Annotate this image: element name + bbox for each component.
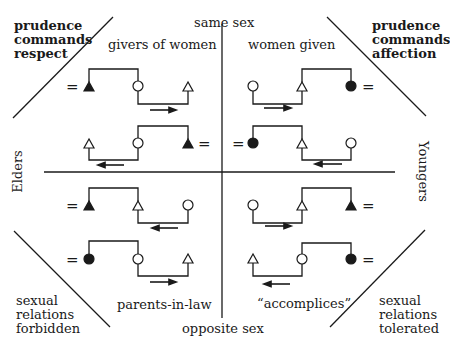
axis-label-left: Elders (10, 147, 25, 197)
axis-label-top: same sex (194, 16, 254, 30)
open-circle-icon (133, 254, 143, 264)
open-circle-icon (248, 81, 258, 91)
filled-triangle-icon (84, 82, 94, 91)
open-circle-icon (183, 200, 193, 210)
corner-label-bottom-right: sexual relations tolerated (379, 294, 439, 336)
equals-sign: = (66, 80, 79, 94)
axis-label-bottom: opposite sex (182, 322, 264, 336)
open-circle-icon (133, 138, 143, 148)
corner-label-bottom-left: sexual relations forbidden (16, 294, 80, 336)
open-triangle-icon (297, 201, 307, 210)
filled-circle-icon (84, 254, 94, 264)
open-triangle-icon (183, 254, 193, 263)
filled-circle-icon (346, 81, 356, 91)
quadrant-label-bottom-right: “accomplices” (257, 297, 351, 311)
quadrant-label-top-right: women given (248, 38, 335, 52)
open-circle-icon (346, 138, 356, 148)
open-circle-icon (133, 81, 143, 91)
open-triangle-icon (84, 139, 94, 148)
equals-sign: = (232, 137, 245, 151)
filled-triangle-icon (346, 201, 356, 210)
open-triangle-icon (183, 82, 193, 91)
corner-label-top-right: prudence commands affection (372, 19, 450, 61)
equals-sign: = (198, 137, 211, 151)
equals-sign: = (66, 253, 79, 267)
filled-circle-icon (248, 138, 258, 148)
equals-sign: = (362, 199, 375, 213)
open-circle-icon (248, 200, 258, 210)
corner-label-top-left: prudence commands respect (14, 19, 92, 61)
quadrant-label-top-left: givers of women (108, 38, 217, 52)
equals-sign: = (66, 199, 79, 213)
equals-sign: = (362, 253, 375, 267)
quadrant-label-bottom-left: parents-in-law (117, 298, 212, 312)
open-triangle-icon (248, 254, 258, 263)
open-triangle-icon (297, 82, 307, 91)
filled-circle-icon (346, 254, 356, 264)
open-triangle-icon (297, 139, 307, 148)
axis-label-right: Youngers (416, 141, 431, 203)
open-circle-icon (297, 254, 307, 264)
filled-triangle-icon (84, 201, 94, 210)
filled-triangle-icon (183, 139, 193, 148)
equals-sign: = (362, 80, 375, 94)
open-triangle-icon (133, 201, 143, 210)
